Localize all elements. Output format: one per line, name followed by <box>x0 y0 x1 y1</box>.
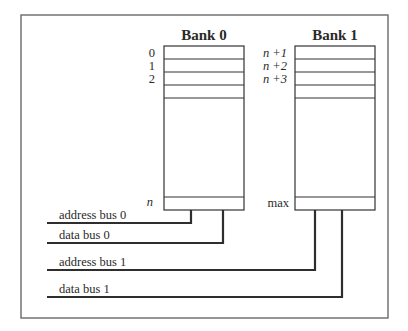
bank-1-last-address-label: max <box>267 196 289 210</box>
memory-bank-diagram: Bank 0 0 1 2 n Bank 1 n +1 n +2 n +3 max… <box>0 0 408 331</box>
bank-0: Bank 0 0 1 2 n <box>147 27 244 210</box>
bank-1-address-label: n +3 <box>263 72 287 86</box>
bank-1-address-label: n +2 <box>263 59 287 73</box>
data-bus-1-label: data bus 1 <box>59 282 110 296</box>
bank-0-box <box>164 46 244 210</box>
data-bus-0-label: data bus 0 <box>59 228 110 242</box>
bank-0-title: Bank 0 <box>181 27 226 43</box>
bank-0-address-label: 0 <box>149 46 155 60</box>
bank-0-address-label: 2 <box>149 72 155 86</box>
bank-1-box <box>295 46 375 210</box>
bank-1-title: Bank 1 <box>312 27 357 43</box>
bank-0-last-address-label: n <box>147 195 153 209</box>
address-bus-0-label: address bus 0 <box>59 208 126 222</box>
bank-0-address-label: 1 <box>149 59 155 73</box>
bank-1: Bank 1 n +1 n +2 n +3 max <box>263 27 375 210</box>
bank-1-address-label: n +1 <box>263 46 287 60</box>
address-bus-1-label: address bus 1 <box>59 255 126 269</box>
